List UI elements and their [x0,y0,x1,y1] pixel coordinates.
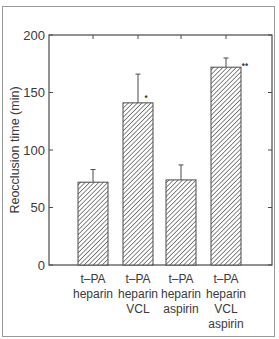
x-category-label: heparin [161,287,201,301]
y-tick-label: 200 [23,28,45,43]
x-category-label: VCL [214,302,238,316]
y-tick-label: 150 [23,85,45,100]
x-category-label: heparin [118,287,158,301]
significance-marker: •• [242,60,248,70]
x-category-label: t–PA [80,272,105,286]
x-category-label: heparin [206,287,246,301]
y-axis-label: Reocclusion time (min) [8,86,22,213]
x-category-label: t–PA [125,272,150,286]
bar-chart: 050100150200Reocclusion time (min)t–PAhe… [0,0,279,339]
x-category-label: heparin [73,287,113,301]
significance-marker: • [144,92,147,102]
x-category-label: t–PA [213,272,238,286]
x-category-label: aspirin [163,302,198,316]
y-tick-label: 50 [31,200,45,215]
bar [166,180,196,265]
x-category-label: aspirin [208,317,243,331]
bar [78,182,108,265]
bar [211,67,241,265]
x-category-label: t–PA [168,272,193,286]
bar [123,103,153,265]
x-category-label: VCL [126,302,150,316]
y-tick-label: 100 [23,143,45,158]
y-tick-label: 0 [38,258,45,273]
plot-area: 050100150200Reocclusion time (min)t–PAhe… [8,28,272,332]
